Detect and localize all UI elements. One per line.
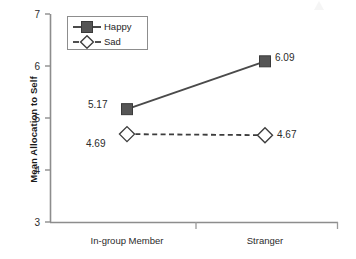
legend-key-happy-icon <box>72 20 102 34</box>
legend-entry-happy: Happy <box>72 19 131 34</box>
legend-label-happy: Happy <box>104 21 131 32</box>
legend-label-sad: Sad <box>104 36 121 47</box>
y-tick-label-7: 7 <box>22 9 40 20</box>
marker-happy-ingroup <box>122 104 133 115</box>
y-tick-label-6: 6 <box>22 61 40 72</box>
y-tick-label-3: 3 <box>22 217 40 228</box>
point-label-sad-ingroup: 4.69 <box>86 138 105 149</box>
y-tick-label-5: 5 <box>22 113 40 124</box>
line-chart-figure: Mean Allocation to Self 7 6 5 4 3 In-gro… <box>0 0 356 259</box>
marker-sad-ingroup <box>120 127 135 142</box>
point-label-sad-stranger: 4.67 <box>277 129 296 140</box>
legend-entry-sad: Sad <box>72 34 121 49</box>
y-axis-ticks <box>45 14 50 222</box>
legend-key-sad-icon <box>72 35 102 49</box>
legend: Happy Sad <box>67 16 148 50</box>
x-tick-label-ingroup: In-group Member <box>77 235 177 246</box>
point-label-happy-stranger: 6.09 <box>275 52 294 63</box>
x-tick-label-stranger: Stranger <box>225 235 305 246</box>
marker-sad-stranger <box>258 128 273 143</box>
point-label-happy-ingroup: 5.17 <box>88 99 107 110</box>
plot-area <box>0 0 356 259</box>
series-line-sad <box>127 134 265 135</box>
marker-happy-stranger <box>260 56 271 67</box>
series-line-happy-seg <box>127 61 265 109</box>
y-tick-label-4: 4 <box>22 165 40 176</box>
